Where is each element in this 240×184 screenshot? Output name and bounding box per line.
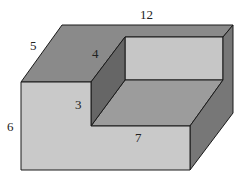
solid-diagram: 12 5 6 4 3 7 bbox=[0, 0, 240, 184]
label-notch-height: 3 bbox=[75, 97, 82, 112]
label-notch-depth: 4 bbox=[92, 46, 99, 61]
label-length: 12 bbox=[140, 7, 153, 22]
inner-back-wall bbox=[125, 37, 223, 80]
label-depth: 5 bbox=[30, 38, 37, 53]
label-notch-length: 7 bbox=[135, 130, 142, 145]
label-height: 6 bbox=[7, 119, 14, 134]
